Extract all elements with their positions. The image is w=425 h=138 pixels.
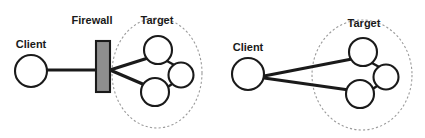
client-label-right: Client	[233, 41, 264, 53]
target-node-top-left	[144, 36, 172, 64]
target-label-left: Target	[141, 14, 174, 26]
panel-firewalled-scan: Client Firewall Target	[15, 14, 202, 128]
link-firewall-to-target-top	[110, 58, 148, 70]
target-node-bottom-right	[346, 80, 374, 108]
target-node-bottom-left	[141, 78, 169, 106]
firewall-label: Firewall	[72, 14, 113, 26]
firewall-node	[96, 41, 110, 92]
client-label-left: Client	[16, 38, 47, 50]
link-client-to-target-top-right	[264, 59, 352, 76]
link-client-to-target-bottom-right	[264, 78, 349, 90]
target-node-top-right	[349, 38, 377, 66]
network-diagram: Client Firewall Target Client Target	[0, 0, 425, 138]
target-node-right-right	[374, 65, 399, 90]
client-node-right	[232, 58, 264, 90]
client-node-left	[15, 55, 47, 87]
panel-direct-scan: Client Target	[232, 17, 412, 130]
target-label-right: Target	[348, 17, 381, 29]
link-firewall-to-target-bottom	[110, 70, 145, 85]
target-node-right-left	[169, 63, 194, 88]
